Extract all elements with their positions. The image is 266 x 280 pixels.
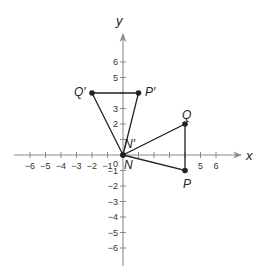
y-tick-label: −3 xyxy=(108,197,118,207)
x-tick-label: −4 xyxy=(56,161,66,171)
y-tick-label: −6 xyxy=(108,243,118,253)
point-label-p-prime: P′ xyxy=(145,85,156,99)
coordinate-plane-diagram: −6−5−4−3−2−1566532−1−2−3−4−5−6 y x 0 Q′ … xyxy=(0,0,266,280)
x-axis-label: x xyxy=(245,148,253,163)
point-p xyxy=(182,168,188,174)
x-tick-label: 6 xyxy=(213,161,218,171)
x-tick-label: −5 xyxy=(40,161,50,171)
y-tick-label: −2 xyxy=(108,181,118,191)
point-q-prime xyxy=(89,90,95,96)
triangles xyxy=(92,93,185,171)
x-tick-label: 5 xyxy=(198,161,203,171)
y-tick-label: −5 xyxy=(108,228,118,238)
coordinate-plane-svg: −6−5−4−3−2−1566532−1−2−3−4−5−6 y x 0 Q′ … xyxy=(0,0,266,280)
x-tick-label: −3 xyxy=(71,161,81,171)
labels: y x 0 Q′ P′ N′ N Q P xyxy=(74,13,253,191)
y-axis-label: y xyxy=(115,13,124,28)
point-p-prime xyxy=(136,90,142,96)
point-n-prime xyxy=(120,152,126,158)
y-tick-label: 6 xyxy=(113,57,118,67)
y-tick-label: 5 xyxy=(113,73,118,83)
x-tick-label: −2 xyxy=(87,161,97,171)
point-label-n-prime: N′ xyxy=(124,137,136,151)
y-tick-label: −4 xyxy=(108,212,118,222)
y-tick-label: 3 xyxy=(113,104,118,114)
x-tick-label: −6 xyxy=(25,161,35,171)
point-q xyxy=(182,121,188,127)
y-tick-label: 2 xyxy=(113,119,118,129)
point-label-p: P xyxy=(183,177,191,191)
point-label-q-prime: Q′ xyxy=(74,85,86,99)
point-label-q: Q xyxy=(182,108,191,122)
origin-label: 0 xyxy=(113,159,118,169)
point-label-n: N xyxy=(124,158,133,172)
